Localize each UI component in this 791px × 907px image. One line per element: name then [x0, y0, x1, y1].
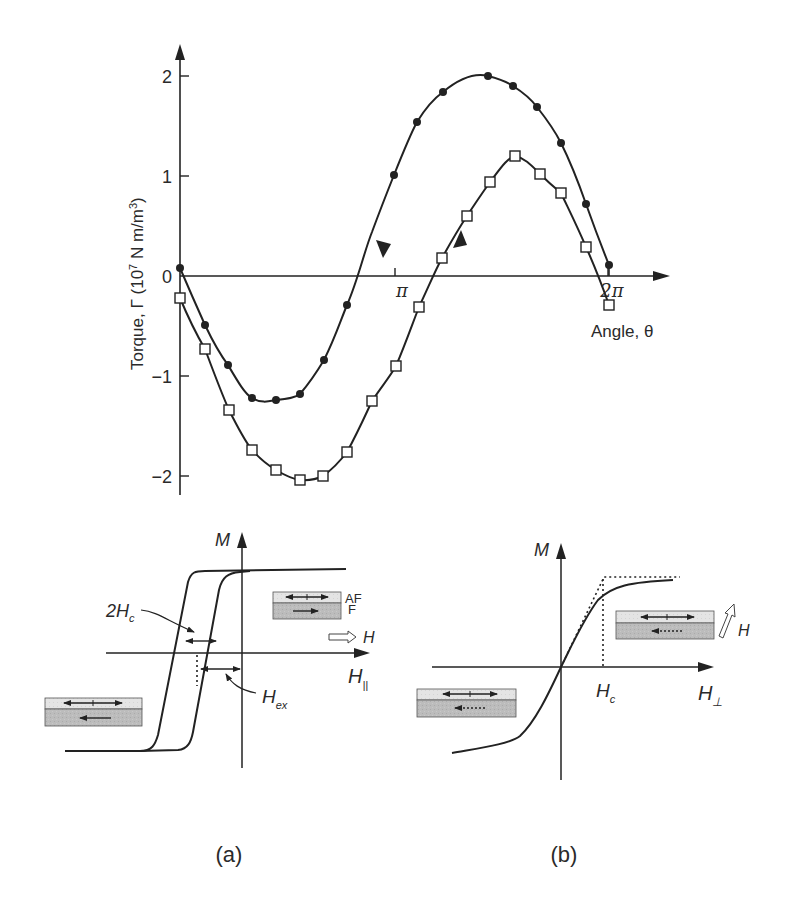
arrow-up-icon — [453, 230, 467, 248]
bilayer-diagram-left — [45, 698, 142, 726]
m-axis-label: M — [215, 530, 230, 550]
x-axis-arrow-icon — [653, 271, 670, 281]
torque-chart: 2 1 0 −1 −2 π 2π Torque, Γ (107 N m/m3) … — [127, 44, 670, 495]
y-tick-label: 0 — [162, 267, 172, 287]
h-parallel-label: H|| — [348, 665, 368, 691]
figure-canvas: 2 1 0 −1 −2 π 2π Torque, Γ (107 N m/m3) … — [0, 0, 791, 907]
m-axis-label: M — [534, 540, 549, 560]
applied-field-label: H — [738, 622, 750, 639]
series-open-curve — [180, 156, 609, 480]
h-axis-arrow-icon — [354, 648, 370, 658]
panel-b-hard-axis: M H⊥ Hc H (b) — [417, 540, 750, 867]
hex-label: Hex — [262, 686, 288, 711]
panel-a-caption: (a) — [216, 842, 243, 867]
bilayer-diagram-left — [417, 689, 516, 717]
panel-b-caption: (b) — [551, 842, 578, 867]
hex-pointer-arrow — [226, 674, 256, 693]
x-tick-label-pi: π — [395, 280, 409, 301]
applied-field-arrow-icon — [719, 604, 735, 638]
h-perp-label: H⊥ — [698, 682, 722, 709]
y-tick-label: 2 — [162, 67, 172, 87]
2hc-pointer-arrow — [141, 610, 194, 632]
y-tick-label: −1 — [151, 367, 172, 387]
hc-label: Hc — [596, 680, 616, 705]
m-axis-arrow-icon — [237, 532, 247, 548]
x-axis-label: Angle, θ — [591, 322, 653, 341]
m-axis-arrow-icon — [556, 543, 566, 559]
bilayer-diagram-right: AF F H — [273, 591, 375, 646]
open-square-markers — [175, 151, 614, 485]
y-tick-label: 1 — [162, 167, 172, 187]
panel-a-hysteresis: M H|| 2Hc Hex AF F H — [45, 530, 375, 867]
y-tick-label: −2 — [151, 467, 172, 487]
applied-field-arrow-icon — [329, 631, 356, 643]
2hc-label: 2Hc — [105, 601, 135, 624]
bilayer-diagram-right: H — [616, 604, 750, 639]
applied-field-label: H — [363, 629, 375, 646]
y-axis-label: Torque, Γ (107 N m/m3) — [127, 197, 147, 370]
h-axis-arrow-icon — [698, 662, 714, 672]
arrow-down-icon — [376, 240, 391, 258]
loop-ascending-branch — [140, 571, 250, 751]
y-axis-arrow-icon — [175, 44, 185, 60]
series-filled-curve — [180, 75, 609, 401]
f-layer-label: F — [348, 602, 356, 617]
x-ticks: π 2π — [395, 262, 625, 301]
